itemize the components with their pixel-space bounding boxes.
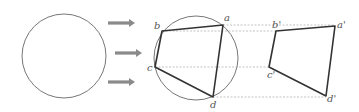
transform-arrows	[108, 19, 142, 86]
source-circle	[22, 14, 106, 98]
vertex-label-c: c	[147, 62, 153, 73]
vertex-label-c-prime: c'	[267, 69, 275, 80]
vertex-label-a-prime: a'	[337, 19, 346, 30]
vertex-label-a: a	[224, 12, 230, 23]
arrow-icon	[115, 49, 142, 57]
diagram-canvas: abcd a'b'c'd'	[0, 0, 359, 112]
vertex-label-b-prime: b'	[272, 19, 281, 30]
vertex-label-d: d	[210, 99, 216, 110]
arrow-icon	[108, 19, 135, 27]
diagram-svg: abcd a'b'c'd'	[0, 0, 359, 112]
vertex-label-d-prime: d'	[327, 93, 336, 104]
projected-quadrilateral	[269, 26, 335, 96]
arrow-icon	[108, 78, 135, 86]
vertex-label-b: b	[154, 20, 160, 31]
